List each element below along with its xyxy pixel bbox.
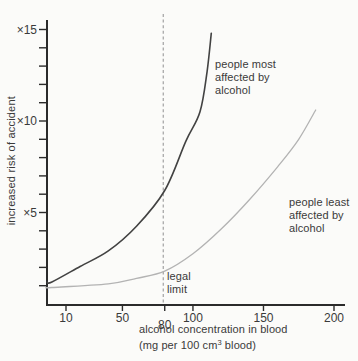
x-tick-label: 50 bbox=[116, 311, 130, 325]
y-tick-label: ×10 bbox=[17, 114, 38, 128]
annotation-most-affected: people most affected by alcohol bbox=[215, 58, 276, 97]
curve-least-affected bbox=[46, 110, 316, 288]
x-axis-title-line1: alcohol concentration in blood bbox=[139, 322, 288, 336]
x-axis-title: alcohol concentration in blood (mg per 1… bbox=[139, 322, 288, 352]
curve-most-affected bbox=[47, 33, 211, 283]
y-tick-label: ×15 bbox=[17, 23, 38, 37]
x-axis-title-line2: (mg per 100 cm3 blood) bbox=[139, 336, 288, 352]
chart-canvas: ×15×10×5105080100150200 bbox=[0, 0, 358, 361]
y-axis-title: increased risk of accident bbox=[5, 96, 17, 225]
x-tick-label: 10 bbox=[59, 311, 73, 325]
x-tick-label: 200 bbox=[324, 311, 344, 325]
chart-figure: ×15×10×5105080100150200 increased risk o… bbox=[0, 0, 358, 361]
legal-limit-label: legal limit bbox=[167, 270, 191, 296]
annotation-least-affected: people least affected by alcohol bbox=[289, 196, 350, 235]
y-tick-label: ×5 bbox=[23, 206, 37, 220]
